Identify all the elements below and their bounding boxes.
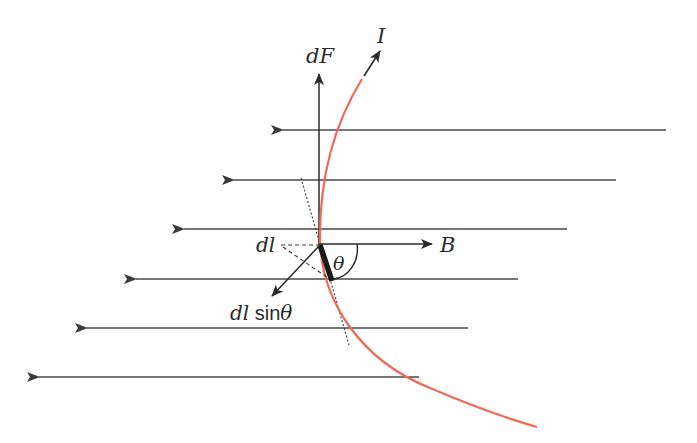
- field-lines: [39, 130, 666, 377]
- projection-arrow: [272, 246, 319, 296]
- wire-curve: [320, 79, 537, 427]
- magnetic-force-diagram: dF I B dl θ dl sinθ: [0, 0, 697, 443]
- force-label: dF: [306, 44, 335, 68]
- current-arrow: [364, 51, 380, 76]
- projection-label-theta: θ: [280, 301, 292, 325]
- current-label: I: [376, 24, 386, 48]
- projection-label: dl sinθ: [230, 301, 292, 325]
- projection-label-dl: dl: [230, 301, 249, 325]
- projection-label-sin: sin: [249, 302, 280, 324]
- element-label: dl: [256, 233, 275, 257]
- field-label: B: [439, 233, 455, 257]
- angle-label: θ: [333, 252, 345, 274]
